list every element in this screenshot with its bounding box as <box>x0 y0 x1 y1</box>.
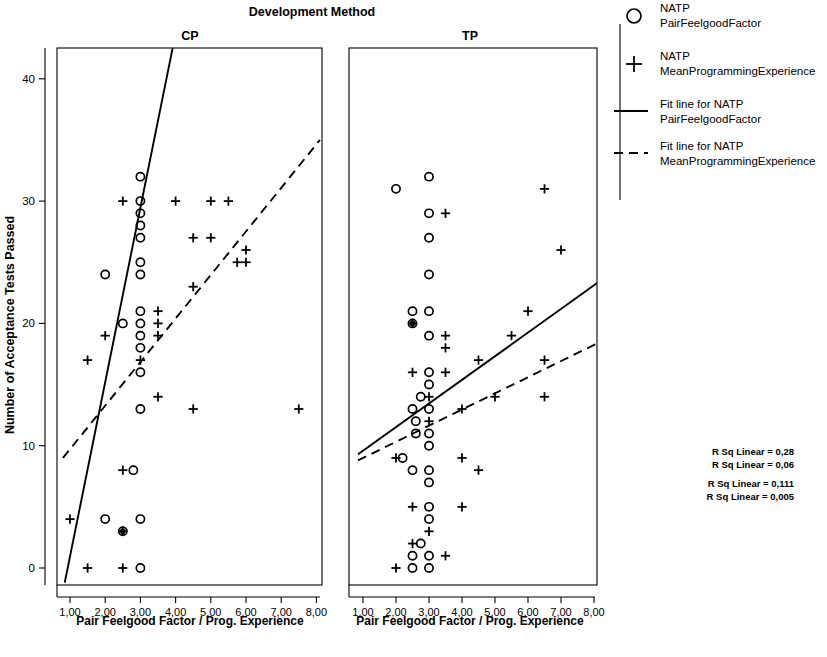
x-axis-tick-label: 5,00 <box>200 606 221 618</box>
data-point-plus <box>189 233 198 242</box>
series-meanprogrammingexperience <box>65 197 303 573</box>
data-point-circle <box>136 405 144 413</box>
data-point-circle <box>136 319 144 327</box>
data-point-circle <box>425 564 433 572</box>
data-point-circle <box>425 307 433 315</box>
r-squared-line: R Sq Linear = 0,06 <box>712 459 794 470</box>
data-point-overlap <box>121 529 125 533</box>
legend-item-1[interactable]: NATPPairFeelgoodFactor <box>627 2 761 29</box>
x-axis-tick-label: 6,00 <box>517 606 538 618</box>
legend-item-2[interactable]: NATPMeanProgrammingExperience <box>626 50 815 77</box>
x-axis-tick-label: 1,00 <box>352 606 373 618</box>
data-point-plus <box>206 197 215 206</box>
data-point-plus <box>153 307 162 316</box>
data-point-circle <box>425 405 433 413</box>
data-point-circle <box>408 466 416 474</box>
data-point-circle <box>101 515 109 523</box>
data-point-circle <box>417 393 425 401</box>
data-point-plus <box>441 368 450 377</box>
data-point-circle <box>425 466 433 474</box>
data-point-circle <box>392 185 400 193</box>
scatterplot-figure: Development Method CP TP Number of Accep… <box>0 0 827 657</box>
r-squared-line: R Sq Linear = 0,005 <box>707 491 795 502</box>
data-point-circle <box>417 539 425 547</box>
circle-marker-icon <box>627 9 641 23</box>
panel-plot-area <box>63 42 320 583</box>
data-point-overlap <box>411 321 415 325</box>
data-point-plus <box>408 368 417 377</box>
legend-item-3[interactable]: Fit line for NATPPairFeelgoodFactor <box>614 98 761 125</box>
legend-label-line2: PairFeelgoodFactor <box>660 113 761 125</box>
legend-item-4[interactable]: Fit line for NATPMeanProgrammingExperien… <box>614 140 815 167</box>
data-point-plus <box>457 502 466 511</box>
data-point-plus <box>408 539 417 548</box>
data-point-circle <box>136 332 144 340</box>
data-point-plus <box>206 233 215 242</box>
data-point-plus <box>490 392 499 401</box>
data-point-circle <box>425 503 433 511</box>
data-point-plus <box>65 514 74 523</box>
data-point-circle <box>425 270 433 278</box>
data-point-plus <box>457 404 466 413</box>
data-point-plus <box>523 307 532 316</box>
panel-title-cp: CP <box>181 29 198 43</box>
data-point-circle <box>425 209 433 217</box>
data-point-circle <box>136 564 144 572</box>
x-axis-tick-label: 6,00 <box>235 606 256 618</box>
panel-frame <box>57 48 322 585</box>
data-point-plus <box>136 355 145 364</box>
data-point-circle <box>408 307 416 315</box>
plot-layer: 1,002,003,004,005,006,007,008,0001020304… <box>22 42 605 618</box>
data-point-circle <box>425 234 433 242</box>
data-point-plus <box>153 331 162 340</box>
legend-label-line2: MeanProgrammingExperience <box>660 65 815 77</box>
data-point-plus <box>294 404 303 413</box>
data-point-circle <box>136 368 144 376</box>
r-squared-tp: R Sq Linear = 0,111R Sq Linear = 0,005 <box>707 478 795 502</box>
legend-label-line1: NATP <box>660 2 690 14</box>
data-point-circle <box>408 564 416 572</box>
data-point-plus <box>83 563 92 572</box>
data-point-plus <box>189 404 198 413</box>
data-point-plus <box>224 197 233 206</box>
x-axis-tick-label: 7,00 <box>270 606 291 618</box>
data-point-plus <box>241 245 250 254</box>
data-point-plus <box>441 331 450 340</box>
y-axis-tick-label: 40 <box>22 73 35 85</box>
x-axis-tick-label: 3,00 <box>130 606 151 618</box>
data-point-plus <box>391 563 400 572</box>
y-axis-tick-label: 10 <box>22 440 35 452</box>
data-point-plus <box>556 245 565 254</box>
plus-marker-icon <box>626 56 642 72</box>
data-point-circle <box>425 552 433 560</box>
x-axis-tick-label: 2,00 <box>94 606 115 618</box>
data-point-circle <box>425 173 433 181</box>
data-point-plus <box>118 563 127 572</box>
fit-line-dashed <box>63 140 320 458</box>
y-axis-tick-label: 30 <box>22 195 35 207</box>
panel-plot-area <box>358 173 601 573</box>
x-axis-tick-label: 4,00 <box>165 606 186 618</box>
data-point-circle <box>408 405 416 413</box>
legend: NATPPairFeelgoodFactorNATPMeanProgrammin… <box>614 2 815 200</box>
figure-canvas: Development Method CP TP Number of Accep… <box>0 0 827 657</box>
x-axis-tick-label: 8,00 <box>306 606 327 618</box>
data-point-circle <box>101 270 109 278</box>
fit-line-solid <box>358 281 601 455</box>
x-axis-tick-label: 2,00 <box>385 606 406 618</box>
data-point-plus <box>441 209 450 218</box>
data-point-circle <box>136 270 144 278</box>
data-point-plus <box>441 343 450 352</box>
legend-label-line1: Fit line for NATP <box>660 98 744 110</box>
data-point-circle <box>425 368 433 376</box>
r-squared-line: R Sq Linear = 0,111 <box>708 478 795 489</box>
data-point-plus <box>171 197 180 206</box>
data-point-plus <box>83 355 92 364</box>
data-point-plus <box>540 392 549 401</box>
data-point-circle <box>136 515 144 523</box>
data-point-plus <box>540 184 549 193</box>
x-axis-tick-label: 8,00 <box>583 606 604 618</box>
data-point-plus <box>233 258 242 267</box>
data-point-plus <box>408 502 417 511</box>
x-axis-tick-label: 7,00 <box>550 606 571 618</box>
